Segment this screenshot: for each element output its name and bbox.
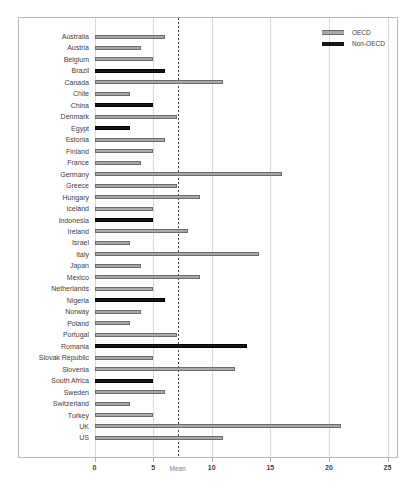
- bar-iceland: [95, 207, 154, 211]
- bar-greece: [95, 184, 177, 188]
- category-label-iceland: Iceland: [10, 204, 89, 213]
- bar-chart: AustraliaAustriaBelgiumBrazilCanadaChile…: [0, 0, 415, 490]
- category-label-mexico: Mexico: [10, 273, 89, 282]
- x-tick-label-20: 20: [325, 464, 333, 471]
- category-label-switzerland: Switzerland: [10, 399, 89, 408]
- x-tick-label-10: 10: [208, 464, 216, 471]
- bar-slovak-republic: [95, 356, 154, 360]
- category-label-hungary: Hungary: [10, 193, 89, 202]
- category-label-turkey: Turkey: [10, 411, 89, 420]
- tickmark-15: [270, 458, 271, 462]
- bar-nigeria: [95, 298, 165, 302]
- legend-label-non-oecd: Non-OECD: [352, 40, 385, 47]
- bar-israel: [95, 241, 130, 245]
- bar-switzerland: [95, 402, 130, 406]
- category-label-indonesia: Indonesia: [10, 216, 89, 225]
- bar-belgium: [95, 57, 154, 61]
- category-label-denmark: Denmark: [10, 112, 89, 121]
- mean-axis-label: Mean: [170, 465, 186, 472]
- gridline-25: [388, 18, 389, 457]
- tickmark-5: [153, 458, 154, 462]
- category-label-germany: Germany: [10, 170, 89, 179]
- category-label-italy: Italy: [10, 250, 89, 259]
- bar-germany: [95, 172, 283, 176]
- legend: OECD Non-OECD: [322, 27, 385, 49]
- bar-canada: [95, 80, 224, 84]
- category-label-australia: Australia: [10, 32, 89, 41]
- category-label-netherlands: Netherlands: [10, 284, 89, 293]
- category-label-egypt: Egypt: [10, 124, 89, 133]
- category-label-belgium: Belgium: [10, 55, 89, 64]
- bar-australia: [95, 35, 165, 39]
- gridline-20: [329, 18, 330, 457]
- category-label-ireland: Ireland: [10, 227, 89, 236]
- category-label-france: France: [10, 158, 89, 167]
- tickmark-25: [388, 458, 389, 462]
- category-label-austria: Austria: [10, 43, 89, 52]
- category-label-greece: Greece: [10, 181, 89, 190]
- bar-indonesia: [95, 218, 154, 222]
- x-tick-label-5: 5: [151, 464, 155, 471]
- category-label-norway: Norway: [10, 307, 89, 316]
- category-label-sweden: Sweden: [10, 388, 89, 397]
- legend-label-oecd: OECD: [352, 29, 371, 36]
- bar-mexico: [95, 275, 200, 279]
- bar-turkey: [95, 413, 154, 417]
- category-label-china: China: [10, 101, 89, 110]
- category-label-portugal: Portugal: [10, 330, 89, 339]
- category-label-estonia: Estonia: [10, 135, 89, 144]
- bar-uk: [95, 424, 341, 428]
- category-label-slovenia: Slovenia: [10, 365, 89, 374]
- bar-france: [95, 161, 142, 165]
- x-tick-label-0: 0: [93, 464, 97, 471]
- bar-brazil: [95, 69, 165, 73]
- bar-denmark: [95, 115, 177, 119]
- legend-item-oecd: OECD: [322, 27, 385, 38]
- category-label-chile: Chile: [10, 89, 89, 98]
- category-label-us: US: [10, 433, 89, 442]
- oecd-swatch-icon: [322, 30, 344, 35]
- bar-south-africa: [95, 379, 154, 383]
- bar-estonia: [95, 138, 165, 142]
- x-tick-label-25: 25: [384, 464, 392, 471]
- bar-romania: [95, 344, 247, 348]
- category-label-nigeria: Nigeria: [10, 296, 89, 305]
- gridline-15: [270, 18, 271, 457]
- category-label-finland: Finland: [10, 147, 89, 156]
- bar-japan: [95, 264, 142, 268]
- category-label-israel: Israel: [10, 238, 89, 247]
- bar-ireland: [95, 229, 189, 233]
- bar-sweden: [95, 390, 165, 394]
- x-tick-label-15: 15: [266, 464, 274, 471]
- bar-austria: [95, 46, 142, 50]
- category-label-japan: Japan: [10, 261, 89, 270]
- bar-finland: [95, 149, 154, 153]
- category-label-romania: Romania: [10, 342, 89, 351]
- tickmark-20: [329, 458, 330, 462]
- tickmark-10: [212, 458, 213, 462]
- bar-hungary: [95, 195, 200, 199]
- bar-portugal: [95, 333, 177, 337]
- category-label-uk: UK: [10, 422, 89, 431]
- bar-slovenia: [95, 367, 236, 371]
- bar-italy: [95, 252, 259, 256]
- legend-item-non-oecd: Non-OECD: [322, 38, 385, 49]
- category-label-brazil: Brazil: [10, 66, 89, 75]
- bar-norway: [95, 310, 142, 314]
- non-oecd-swatch-icon: [322, 42, 344, 46]
- bar-chile: [95, 92, 130, 96]
- category-label-south-africa: South Africa: [10, 376, 89, 385]
- category-label-slovak-republic: Slovak Republic: [10, 353, 89, 362]
- category-label-poland: Poland: [10, 319, 89, 328]
- bar-poland: [95, 321, 130, 325]
- bar-china: [95, 103, 154, 107]
- category-label-canada: Canada: [10, 78, 89, 87]
- bar-us: [95, 436, 224, 440]
- tickmark-0: [95, 458, 96, 462]
- bar-netherlands: [95, 287, 154, 291]
- bar-egypt: [95, 126, 130, 130]
